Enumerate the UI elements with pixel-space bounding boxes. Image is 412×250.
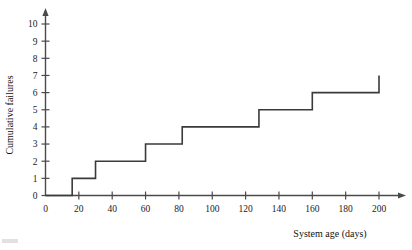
- x-tick-label-160: 160: [305, 204, 320, 214]
- y-tick-label-6: 6: [33, 88, 38, 98]
- x-tick-label-40: 40: [107, 204, 117, 214]
- step-series-cumulative-failures: [46, 75, 380, 195]
- y-axis: [42, 8, 48, 196]
- cumulative-failures-step-chart: 012345678910 020406080100120140160180200…: [0, 0, 412, 250]
- y-tick-label-4: 4: [33, 122, 38, 132]
- x-tick-label-140: 140: [272, 204, 287, 214]
- x-axis-title: System age (days): [293, 228, 366, 240]
- x-tick-label-120: 120: [238, 204, 253, 214]
- x-tick-label-80: 80: [174, 204, 184, 214]
- x-tick-label-60: 60: [141, 204, 151, 214]
- y-tick-group: 012345678910: [28, 19, 50, 201]
- scan-artifact: [2, 239, 18, 243]
- y-tick-label-5: 5: [33, 105, 38, 115]
- y-tick-label-10: 10: [28, 19, 38, 29]
- y-tick-label-2: 2: [33, 157, 38, 167]
- y-tick-label-8: 8: [33, 54, 38, 64]
- y-tick-label-1: 1: [33, 174, 38, 184]
- y-tick-label-0: 0: [33, 191, 38, 201]
- y-axis-title: Cumulative failures: [4, 75, 15, 154]
- chart-figure: 012345678910 020406080100120140160180200…: [0, 0, 412, 250]
- x-tick-label-0: 0: [43, 204, 48, 214]
- x-tick-label-200: 200: [372, 204, 387, 214]
- x-tick-label-20: 20: [74, 204, 84, 214]
- x-tick-label-100: 100: [205, 204, 220, 214]
- y-tick-label-7: 7: [33, 71, 38, 81]
- y-axis-arrow-icon: [42, 8, 48, 16]
- y-tick-label-9: 9: [33, 37, 38, 47]
- x-tick-label-180: 180: [339, 204, 354, 214]
- x-axis-arrow-icon: [398, 192, 406, 198]
- x-axis: [46, 192, 407, 198]
- y-tick-label-3: 3: [33, 139, 38, 149]
